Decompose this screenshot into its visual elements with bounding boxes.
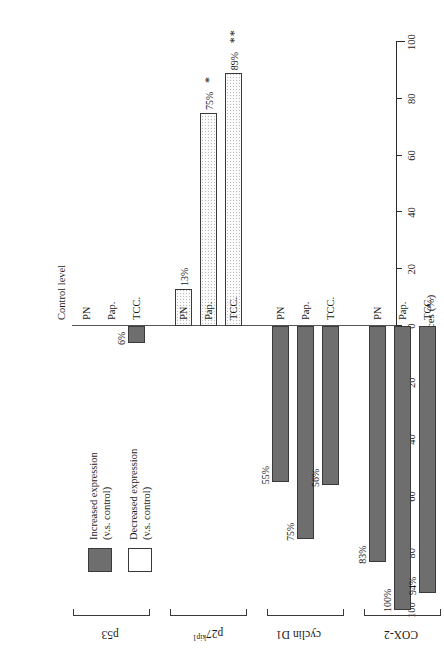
group-label-p27: p27kip1 xyxy=(190,628,224,642)
bar-value-label: 89% xyxy=(229,52,241,70)
axis-tick xyxy=(396,268,402,269)
control-level-label: Control level xyxy=(56,265,67,320)
bar-cox-2-tcc xyxy=(419,326,436,593)
group-bracket xyxy=(170,609,247,616)
axis-tick-label: 40 xyxy=(406,197,417,227)
category-label-tcc: TCC. xyxy=(422,297,434,320)
group-bracket xyxy=(364,609,441,616)
axis-tick-label: 20 xyxy=(406,254,417,284)
category-label-pn: PN xyxy=(372,307,384,320)
legend-swatch-decreased xyxy=(128,548,152,572)
bar-value-label: 75% xyxy=(285,523,297,541)
category-label-pap: Pap. xyxy=(203,302,215,320)
category-label-pn: PN xyxy=(178,307,190,320)
bar-value-label: 6% xyxy=(116,332,128,345)
significance-marker: ** xyxy=(228,29,240,43)
bar-cyclin-d1-pap xyxy=(297,326,314,539)
legend-label-increased-line1: Increased expression xyxy=(87,452,100,540)
group-label-cox-2: COX-2 xyxy=(384,629,418,641)
axis-tick xyxy=(396,155,402,156)
category-label-pap: Pap. xyxy=(397,302,409,320)
category-label-pap: Pap. xyxy=(300,302,312,320)
bar-value-label: 13% xyxy=(179,268,191,286)
bar-p27-pap xyxy=(200,113,217,326)
bar-value-label: 94% xyxy=(407,577,419,595)
bar-cox-2-pap xyxy=(394,326,411,610)
bar-value-label: 83% xyxy=(357,545,369,563)
bar-p53-tcc xyxy=(128,326,145,343)
category-label-tcc: TCC. xyxy=(325,297,337,320)
axis-tick xyxy=(396,211,402,212)
plot-area: 10080604020020406080100 Incidences (%) C… xyxy=(0,0,444,656)
legend-label-decreased-line1: Decreased expression xyxy=(127,449,140,540)
legend-swatch-increased xyxy=(88,548,112,572)
category-label-pn: PN xyxy=(81,307,93,320)
group-bracket xyxy=(73,609,150,616)
legend-label-decreased-line2: (v.s. control) xyxy=(140,487,153,540)
bar-value-label: 55% xyxy=(260,466,272,484)
axis-tick xyxy=(396,98,402,99)
significance-marker: * xyxy=(203,76,215,83)
category-label-pn: PN xyxy=(275,307,287,320)
bar-value-label: 56% xyxy=(310,469,322,487)
legend-label-increased-line2: (v.s. control) xyxy=(100,487,113,540)
bar-cyclin-d1-pn xyxy=(272,326,289,482)
bar-value-label: 75% xyxy=(204,92,216,110)
bar-p27-tcc xyxy=(225,73,242,326)
category-label-tcc: TCC. xyxy=(228,297,240,320)
group-label-cyclin-d1: cyclin D1 xyxy=(287,629,321,641)
group-label-p53: p53 xyxy=(93,629,127,641)
group-bracket xyxy=(267,609,344,616)
axis-tick-label: 60 xyxy=(406,141,417,171)
axis-tick xyxy=(396,41,405,42)
category-label-tcc: TCC. xyxy=(131,297,143,320)
axis-tick-label: 100 xyxy=(406,27,417,57)
axis-tick-label: 80 xyxy=(406,84,417,114)
chart-figure: 10080604020020406080100 Incidences (%) C… xyxy=(0,0,444,656)
bar-cyclin-d1-tcc xyxy=(322,326,339,485)
bar-cox-2-pn xyxy=(369,326,386,562)
category-label-pap: Pap. xyxy=(106,302,118,320)
